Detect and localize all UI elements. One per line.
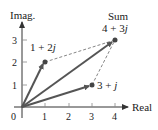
x-axis-label: Real xyxy=(132,101,152,113)
label-sum: 4 + 3j xyxy=(102,22,128,34)
label-sum-caption: Sum xyxy=(108,10,129,22)
point-z1 xyxy=(43,60,48,65)
label-z1-text: 1 + 2 xyxy=(30,41,53,53)
y-tick-label-2: 2 xyxy=(12,57,17,68)
point-sum xyxy=(113,38,118,43)
origin-label: 0 xyxy=(11,111,16,122)
y-tick-label-1: 1 xyxy=(12,80,17,91)
x-tick-label-4: 4 xyxy=(112,111,117,122)
point-z2 xyxy=(90,83,95,88)
complex-plane-diagram: 0 1 2 3 4 1 2 3 Imag. Real 1 + 2j 3 + j … xyxy=(0,0,158,130)
y-axis-label: Imag. xyxy=(10,9,36,21)
y-tick-label-3: 3 xyxy=(12,35,17,46)
label-z2-text: 3 + xyxy=(97,79,114,91)
label-z1: 1 + 2j xyxy=(30,41,56,53)
vector-z2 xyxy=(22,86,89,107)
label-sum-text: 4 + 3 xyxy=(102,22,125,34)
label-z2: 3 + j xyxy=(97,79,117,91)
x-tick-label-2: 2 xyxy=(66,111,71,122)
x-tick-label-1: 1 xyxy=(42,111,47,122)
x-tick-label-3: 3 xyxy=(89,111,94,122)
